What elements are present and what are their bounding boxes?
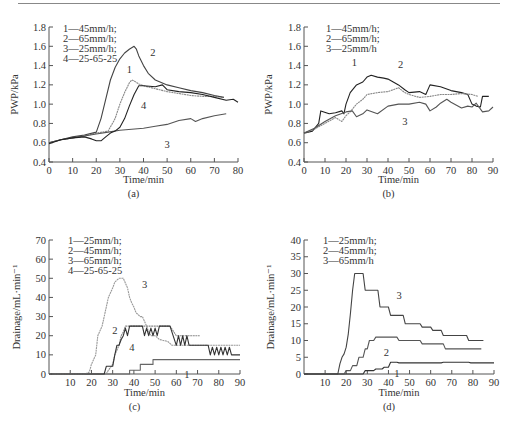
y-tick-label: 0.6 — [288, 137, 301, 148]
y-tick-label: 1.6 — [288, 41, 301, 52]
x-axis-title: Time/min — [124, 387, 166, 398]
curve-label: 3 — [142, 279, 147, 290]
y-axis-title: PWP/kPa — [9, 74, 20, 115]
x-tick-label: 10 — [67, 165, 78, 176]
chart-b: 0.40.60.81.01.21.41.61.80102030405060708… — [263, 22, 498, 201]
series-line-4 — [49, 85, 238, 144]
y-tick-label: 20 — [291, 302, 302, 313]
panel-label: (a) — [128, 188, 140, 200]
figure-canvas: 0.40.60.81.01.21.41.61.80102030405060708… — [0, 0, 516, 436]
x-tick-label: 70 — [447, 377, 458, 388]
legend-entry: 3—65mm/h — [323, 255, 375, 266]
curve-label: 3 — [396, 290, 401, 301]
chart-a: 0.40.60.81.01.21.41.61.80102030405060708… — [9, 22, 243, 201]
curve-label: 2 — [398, 59, 403, 70]
x-tick-label: 80 — [468, 377, 479, 388]
x-tick-label: 10 — [65, 377, 76, 388]
y-axis-title: Drainage/mL·min⁻¹ — [11, 265, 22, 350]
curve-label: 1 — [184, 369, 189, 380]
x-tick-label: 20 — [86, 377, 97, 388]
y-tick-label: 25 — [291, 285, 302, 296]
series-line-3 — [304, 99, 493, 133]
series-line-2 — [304, 337, 481, 374]
y-tick-label: 35 — [291, 251, 302, 262]
curve-label: 1 — [394, 368, 399, 379]
x-tick-label: 80 — [467, 165, 478, 176]
legend-entry: 4—25-65-25 — [63, 53, 117, 64]
series-line-3 — [49, 114, 226, 143]
x-axis-title: Time/min — [378, 174, 420, 185]
series-line-3 — [304, 274, 483, 375]
y-tick-label: 30 — [36, 311, 47, 322]
legend-entry: 4—25-65-25 — [68, 265, 122, 276]
panel-label: (c) — [129, 401, 141, 413]
y-tick-label: 0.4 — [288, 157, 302, 168]
y-tick-label: 40 — [291, 235, 302, 246]
x-tick-label: 20 — [341, 165, 352, 176]
curve-label: 4 — [129, 342, 135, 353]
y-tick-label: 1.4 — [33, 60, 47, 71]
x-tick-label: 10 — [320, 165, 331, 176]
y-tick-label: 1.0 — [288, 99, 301, 110]
x-tick-label: 60 — [186, 165, 197, 176]
y-tick-label: 0.8 — [288, 118, 301, 129]
x-tick-label: 70 — [446, 165, 457, 176]
curve-label: 3 — [165, 139, 170, 150]
x-tick-label: 20 — [341, 377, 352, 388]
y-tick-label: 60 — [36, 254, 47, 265]
x-tick-label: 0 — [46, 165, 51, 176]
y-tick-label: 10 — [36, 349, 47, 360]
curve-label: 1 — [127, 64, 132, 75]
x-tick-label: 30 — [107, 377, 118, 388]
y-tick-label: 0.6 — [33, 137, 46, 148]
y-tick-label: 1.8 — [288, 22, 301, 33]
y-tick-label: 50 — [36, 273, 47, 284]
x-tick-label: 0 — [301, 165, 306, 176]
y-tick-label: 20 — [36, 330, 47, 341]
curve-label: 2 — [384, 347, 389, 358]
y-tick-label: 0.8 — [33, 118, 46, 129]
chart-d: 0510152025303540102030405060708090Time/m… — [265, 235, 499, 414]
y-tick-label: 15 — [291, 318, 302, 329]
x-tick-label: 60 — [425, 377, 436, 388]
y-tick-label: 1.2 — [288, 79, 301, 90]
y-tick-label: 30 — [291, 268, 302, 279]
series-line-2 — [304, 88, 478, 133]
x-tick-label: 70 — [192, 377, 203, 388]
curve-label: 4 — [141, 100, 147, 111]
x-tick-label: 30 — [362, 165, 373, 176]
curve-label: 1 — [352, 57, 357, 68]
y-tick-label: 10 — [291, 335, 302, 346]
curve-label: 2 — [112, 325, 117, 336]
x-axis-title: Time/min — [378, 387, 420, 398]
x-tick-label: 80 — [214, 377, 225, 388]
x-tick-label: 60 — [425, 165, 436, 176]
y-tick-label: 70 — [36, 235, 47, 246]
y-tick-label: 1.2 — [33, 79, 46, 90]
y-tick-label: 5 — [296, 352, 301, 363]
y-tick-label: 1.8 — [33, 22, 46, 33]
y-axis-title: Drainage/mL·min⁻¹ — [265, 265, 276, 350]
x-tick-label: 10 — [320, 377, 331, 388]
y-axis-title: PWP/kPa — [263, 74, 274, 115]
y-tick-label: 0 — [296, 369, 301, 380]
y-tick-label: 1.0 — [33, 99, 46, 110]
panel-label: (d) — [383, 401, 396, 413]
x-tick-label: 90 — [489, 377, 500, 388]
curve-label: 2 — [150, 47, 155, 58]
x-tick-label: 80 — [233, 165, 244, 176]
y-tick-label: 40 — [36, 292, 47, 303]
chart-c: 010203040506070102030405060708090Time/mi… — [11, 235, 245, 414]
series-line-1 — [49, 360, 240, 374]
x-axis-title: Time/min — [123, 174, 165, 185]
x-tick-label: 20 — [91, 165, 102, 176]
panel-label: (b) — [382, 188, 395, 200]
y-tick-label: 1.6 — [33, 41, 46, 52]
x-tick-label: 70 — [209, 165, 220, 176]
y-tick-label: 1.4 — [288, 60, 302, 71]
curve-label: 3 — [402, 116, 407, 127]
legend-entry: 3—25mm/h — [326, 43, 378, 54]
y-tick-label: 0 — [41, 369, 46, 380]
x-tick-label: 30 — [362, 377, 373, 388]
y-tick-label: 0.4 — [33, 157, 47, 168]
